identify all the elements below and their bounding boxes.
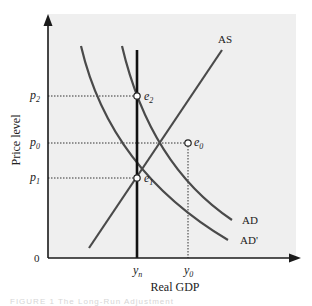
equilibrium-point-e0	[185, 140, 191, 146]
ad-as-diagram: p2 p0 p1 0 Price level yn y0 Real GDP e2…	[0, 0, 312, 306]
p1-label: p1	[29, 170, 40, 186]
ad-label: AD	[242, 214, 258, 226]
x-axis-title: Real GDP	[151, 280, 200, 294]
yn-label: yn	[132, 263, 142, 279]
y-axis-title: Price level	[9, 114, 23, 166]
ad-prime-label: AD'	[240, 234, 258, 246]
equilibrium-point-e2	[134, 93, 140, 99]
p2-label: p2	[29, 88, 40, 104]
figure-caption: FIGURE 1 The Long-Run Adjustment	[10, 297, 174, 306]
origin-label: 0	[34, 252, 40, 264]
p0-label: p0	[29, 135, 40, 151]
equilibrium-point-e1	[134, 175, 140, 181]
as-label: AS	[218, 33, 232, 45]
plot-background	[48, 14, 296, 258]
y0-label: y0	[183, 263, 193, 279]
